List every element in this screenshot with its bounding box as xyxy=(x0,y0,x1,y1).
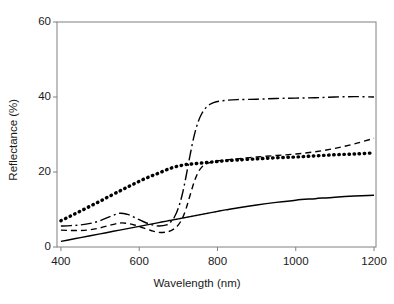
dashed-curve xyxy=(61,138,374,232)
x-tick-label: 800 xyxy=(208,256,227,268)
dotted-curve xyxy=(61,153,374,221)
chart-figure: 0204060 40060080010001200 Wavelength (nm… xyxy=(0,0,394,304)
y-tick-label: 60 xyxy=(23,16,51,28)
axis-ticks xyxy=(53,22,374,251)
x-axis-label: Wavelength (nm) xyxy=(0,278,394,290)
y-tick-label: 0 xyxy=(23,241,51,253)
x-tick-label: 1000 xyxy=(283,256,309,268)
y-tick-label: 20 xyxy=(23,166,51,178)
x-tick-label: 600 xyxy=(130,256,149,268)
x-tick-label: 1200 xyxy=(361,256,387,268)
solid-curve xyxy=(61,195,374,241)
data-series-group xyxy=(61,97,374,242)
plot-frame xyxy=(57,22,376,247)
plot-box xyxy=(57,22,376,247)
x-tick-label: 400 xyxy=(51,256,70,268)
y-axis-label: Reflectance (%) xyxy=(8,80,20,200)
y-tick-label: 40 xyxy=(23,91,51,103)
